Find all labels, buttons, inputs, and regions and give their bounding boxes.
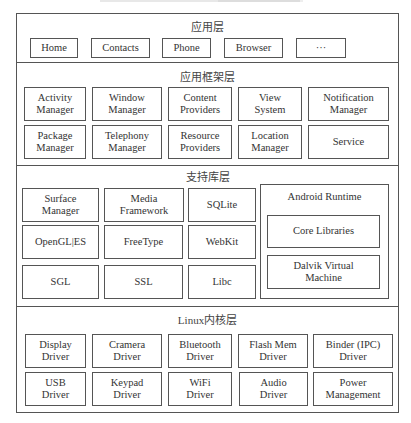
- drv-bluetooth: Bluetooth Driver: [168, 334, 232, 368]
- layer-title-framework: 应用框架层: [16, 70, 399, 84]
- layer-divider: [16, 62, 399, 63]
- cropped-caption-fragment: [218, 0, 303, 2]
- app-home: Home: [30, 38, 78, 58]
- fw-package-manager: Package Manager: [24, 125, 86, 159]
- layer-divider: [16, 306, 399, 307]
- layer-title-kernel: Linux内核层: [16, 313, 399, 327]
- lib-libc: Libc: [188, 265, 256, 299]
- runtime-dalvik-vm: Dalvik Virtual Machine: [267, 255, 380, 289]
- layer-divider: [16, 165, 399, 166]
- drv-display: Display Driver: [25, 334, 86, 368]
- lib-opengl-es: OpenGL|ES: [22, 225, 99, 259]
- fw-view-system: View System: [238, 87, 302, 121]
- android-runtime-title: Android Runtime: [261, 190, 388, 203]
- lib-ssl: SSL: [104, 265, 183, 299]
- runtime-core-libraries: Core Libraries: [267, 215, 380, 248]
- lib-media-framework: Media Framework: [104, 188, 184, 222]
- fw-window-manager: Window Manager: [92, 87, 162, 121]
- lib-sgl: SGL: [22, 265, 99, 299]
- drv-flash-mem: Flash Mem Driver: [238, 334, 308, 368]
- fw-notification-manager: Notification Manager: [308, 87, 389, 121]
- fw-content-providers: Content Providers: [168, 87, 232, 121]
- fw-activity-manager: Activity Manager: [24, 87, 86, 121]
- drv-binder-ipc: Binder (IPC) Driver: [313, 334, 393, 368]
- fw-telephony-manager: Telephony Manager: [92, 125, 162, 159]
- drv-usb: USB Driver: [25, 372, 86, 406]
- drv-power-management: Power Management: [313, 372, 393, 406]
- app-more: ···: [296, 38, 346, 58]
- lib-webkit: WebKit: [188, 225, 256, 259]
- fw-resource-providers: Resource Providers: [168, 125, 232, 159]
- layer-title-libraries: 支持库层: [16, 170, 399, 184]
- app-contacts: Contacts: [91, 38, 150, 58]
- fw-location-manager: Location Manager: [238, 125, 302, 159]
- layer-title-application: 应用层: [16, 20, 399, 34]
- drv-keypad: Keypad Driver: [92, 372, 162, 406]
- app-phone: Phone: [162, 38, 211, 58]
- fw-service: Service: [308, 125, 389, 159]
- lib-sqlite: SQLite: [188, 188, 256, 222]
- lib-surface-manager: Surface Manager: [22, 188, 99, 222]
- app-browser: Browser: [224, 38, 283, 58]
- lib-freetype: FreeType: [104, 225, 183, 259]
- drv-audio: Audio Driver: [239, 372, 308, 406]
- drv-wifi: WiFi Driver: [168, 372, 232, 406]
- drv-camera: Cramera Driver: [92, 334, 162, 368]
